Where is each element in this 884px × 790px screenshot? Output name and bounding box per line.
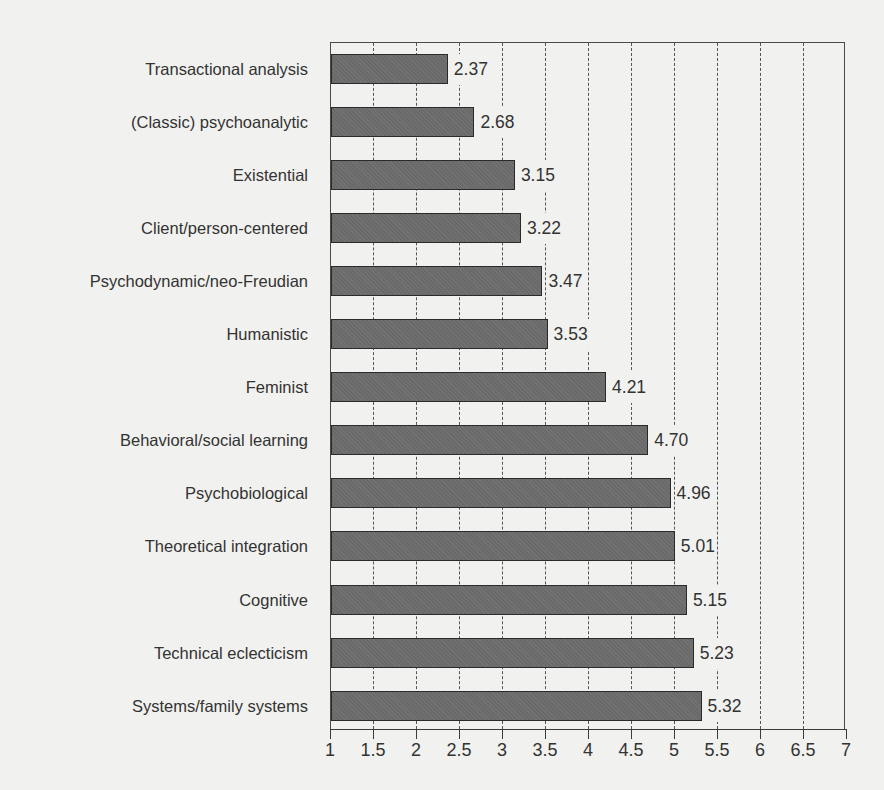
bar bbox=[331, 160, 515, 190]
x-tick-mark bbox=[717, 729, 718, 739]
x-tick-label: 2.5 bbox=[439, 740, 479, 761]
x-tick-mark bbox=[545, 729, 546, 739]
value-label: 2.37 bbox=[452, 54, 490, 85]
x-tick-label: 1 bbox=[310, 740, 350, 761]
category-label: Psychobiological bbox=[185, 478, 308, 509]
bar bbox=[331, 691, 702, 721]
gridline bbox=[674, 43, 675, 729]
category-label: Transactional analysis bbox=[145, 54, 308, 85]
x-tick-label: 1.5 bbox=[353, 740, 393, 761]
value-label: 5.23 bbox=[698, 638, 736, 669]
x-tick-mark bbox=[803, 729, 804, 739]
value-label: 5.01 bbox=[679, 531, 717, 562]
bar bbox=[331, 54, 448, 84]
bar bbox=[331, 425, 648, 455]
x-tick-label: 4 bbox=[568, 740, 608, 761]
x-tick-mark bbox=[674, 729, 675, 739]
category-label: Technical eclecticism bbox=[154, 638, 308, 669]
category-label: Humanistic bbox=[226, 319, 308, 350]
x-tick-mark bbox=[760, 729, 761, 739]
category-label: Feminist bbox=[246, 372, 308, 403]
gridline bbox=[803, 43, 804, 729]
value-label: 5.15 bbox=[691, 585, 729, 616]
bar bbox=[331, 266, 542, 296]
bar bbox=[331, 372, 606, 402]
bar bbox=[331, 319, 548, 349]
category-label: Existential bbox=[233, 160, 308, 191]
x-tick-mark bbox=[846, 729, 847, 739]
value-label: 4.96 bbox=[675, 478, 713, 509]
x-tick-label: 2 bbox=[396, 740, 436, 761]
x-tick-mark bbox=[330, 729, 331, 739]
value-label: 3.15 bbox=[519, 160, 557, 191]
x-tick-label: 6.5 bbox=[783, 740, 823, 761]
value-label: 4.21 bbox=[610, 372, 648, 403]
x-tick-mark bbox=[459, 729, 460, 739]
category-label: Theoretical integration bbox=[145, 531, 308, 562]
gridline bbox=[717, 43, 718, 729]
bar bbox=[331, 213, 521, 243]
value-label: 5.32 bbox=[706, 691, 744, 722]
gridline bbox=[760, 43, 761, 729]
value-label: 3.47 bbox=[546, 266, 584, 297]
x-tick-label: 7 bbox=[826, 740, 866, 761]
x-tick-mark bbox=[588, 729, 589, 739]
bar bbox=[331, 107, 474, 137]
horizontal-bar-chart: Transactional analysis2.37(Classic) psyc… bbox=[0, 0, 884, 790]
value-label: 3.22 bbox=[525, 213, 563, 244]
category-label: Psychodynamic/neo-Freudian bbox=[90, 266, 308, 297]
category-label: Behavioral/social learning bbox=[120, 425, 308, 456]
category-label: Systems/family systems bbox=[132, 691, 308, 722]
value-label: 2.68 bbox=[478, 107, 516, 138]
x-tick-mark bbox=[631, 729, 632, 739]
bar bbox=[331, 638, 694, 668]
x-tick-mark bbox=[416, 729, 417, 739]
bar bbox=[331, 531, 675, 561]
x-tick-label: 4.5 bbox=[611, 740, 651, 761]
category-label: (Classic) psychoanalytic bbox=[131, 107, 308, 138]
x-tick-label: 3.5 bbox=[525, 740, 565, 761]
category-label: Client/person-centered bbox=[141, 213, 308, 244]
x-tick-label: 5 bbox=[654, 740, 694, 761]
x-tick-mark bbox=[502, 729, 503, 739]
bar bbox=[331, 478, 671, 508]
x-tick-mark bbox=[373, 729, 374, 739]
bar bbox=[331, 585, 687, 615]
x-tick-label: 6 bbox=[740, 740, 780, 761]
value-label: 4.70 bbox=[652, 425, 690, 456]
category-label: Cognitive bbox=[239, 585, 308, 616]
x-tick-label: 3 bbox=[482, 740, 522, 761]
value-label: 3.53 bbox=[552, 319, 590, 350]
x-tick-label: 5.5 bbox=[697, 740, 737, 761]
